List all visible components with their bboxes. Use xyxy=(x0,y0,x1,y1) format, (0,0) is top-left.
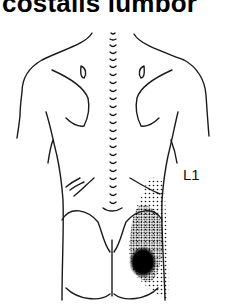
left-buttock xyxy=(62,211,110,252)
left-scapula-tip xyxy=(81,66,86,78)
pain-referral-pattern xyxy=(129,178,169,300)
spine-vertebrae xyxy=(110,33,116,204)
right-scapula-tip xyxy=(139,66,144,78)
left-gluteal-fold xyxy=(66,288,110,299)
left-flank xyxy=(46,112,63,300)
spinal-level-label: L1 xyxy=(183,166,200,183)
right-flank-inner xyxy=(171,140,177,163)
right-shoulder-outline xyxy=(134,34,209,136)
left-iliac-crest xyxy=(66,178,94,196)
left-flank-inner xyxy=(48,140,53,163)
back-anatomy-illustration xyxy=(0,0,225,304)
left-shoulder-outline xyxy=(17,33,92,138)
sacrum xyxy=(103,208,122,211)
